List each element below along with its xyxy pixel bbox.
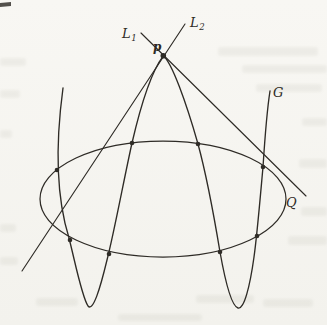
intersection-dot [55, 168, 60, 173]
figure-labels: L1 L2 p G Q [121, 15, 297, 210]
label-L2: L2 [189, 15, 205, 32]
line-L1 [141, 33, 306, 196]
intersection-dot [107, 252, 112, 257]
intersection-dot [255, 234, 260, 239]
conic-Q [40, 141, 286, 257]
figure-canvas: L1 L2 p G Q [0, 0, 327, 325]
intersection-dot [196, 142, 201, 147]
intersection-dot [130, 141, 135, 146]
corner-ink-mark [0, 2, 11, 7]
intersection-dots [55, 141, 266, 257]
intersection-dot [68, 238, 73, 243]
intersection-dot [218, 250, 223, 255]
scanned-page: L1 L2 p G Q [0, 0, 327, 325]
label-G: G [273, 85, 283, 100]
curve-G [58, 56, 270, 308]
label-Q: Q [286, 195, 297, 210]
label-p: p [153, 40, 162, 54]
intersection-dot [261, 165, 266, 170]
line-L2 [22, 24, 185, 271]
label-L1: L1 [121, 26, 137, 43]
